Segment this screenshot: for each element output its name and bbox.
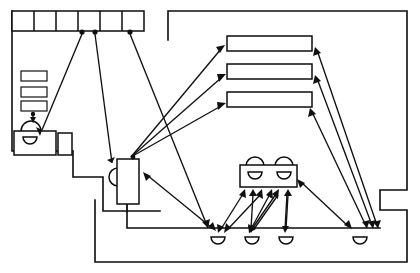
bottom-dome-row [211, 237, 367, 244]
arrow-table-to-floor-right [297, 179, 352, 229]
bottom-dome-3 [279, 237, 293, 244]
arrow-midunit-to-cellstrip [92, 29, 115, 163]
arrow-midunit-to-floor [143, 172, 216, 231]
left-small-rect-3 [21, 101, 47, 111]
bottom-dome-2 [245, 237, 259, 244]
left-small-rectangles [21, 71, 47, 111]
bottom-dome-4 [353, 237, 367, 244]
arrow-group [30, 29, 381, 233]
horizontal-bar-3 [227, 92, 312, 107]
arrow-mid-to-bar1 [131, 45, 225, 157]
arrow-right-to-bar1 [313, 47, 381, 228]
horizontal-bars [227, 36, 312, 107]
floorplan-svg [0, 0, 420, 273]
bottom-dome-1 [211, 237, 225, 244]
table-basin-2 [277, 172, 291, 179]
arrow-hub-midunit [131, 155, 136, 160]
arrow-right-to-bar2 [313, 75, 376, 228]
arrow-right-to-bar3 [308, 108, 370, 228]
left-small-rect-2 [21, 87, 47, 97]
mid-unit [109, 159, 139, 204]
left-counter [14, 131, 56, 155]
left-counter-basin [23, 137, 37, 144]
arrow-mid-to-bar2 [131, 74, 226, 157]
diagram-canvas: Floor plan with movement-flow arrows 22 [0, 0, 420, 273]
arrow-dome-to-cellstrip [36, 29, 85, 136]
table-unit [240, 157, 297, 187]
horizontal-bar-1 [227, 36, 312, 51]
left-small-rect-1 [21, 71, 47, 81]
arrow-floor-to-table-a [217, 189, 246, 233]
arrow-mid-to-bar3 [131, 102, 226, 157]
table-basin-1 [248, 172, 262, 179]
top-cell-strip [12, 11, 144, 31]
horizontal-bar-2 [227, 64, 312, 79]
left-side-box [58, 133, 72, 155]
arrow-lowerfloor-to-cellstrip [127, 29, 210, 228]
